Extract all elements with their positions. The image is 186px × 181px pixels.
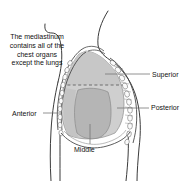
vertebra-segment [124,139,130,146]
rib-segment [60,90,65,96]
label-posterior: Posterior [151,104,179,113]
rib-segment [58,114,62,120]
label-superior: Superior [152,71,178,80]
shoulder-outline [98,11,113,62]
rib-segment [58,106,62,112]
caption-text: The mediastinum contains all of the ches… [6,33,68,68]
rib-segment [59,98,64,104]
mediastinum-diagram: The mediastinum contains all of the ches… [0,0,186,181]
mediastinum-middle-region [75,88,112,139]
rib-segment [58,122,62,128]
label-middle: Middle [74,146,95,155]
torso-left-outline [50,82,58,181]
label-anterior: Anterior [12,110,37,119]
mediastinum-superior-region [65,51,120,85]
